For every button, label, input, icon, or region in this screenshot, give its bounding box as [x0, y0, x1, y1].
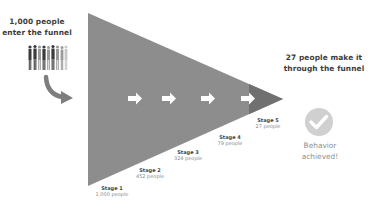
stage-count: 1,000 people — [92, 191, 132, 197]
stage-label-2: Stage 2 452 people — [130, 167, 170, 179]
intro-text: 1,000 people enter the funnel — [0, 16, 74, 38]
result-line-2: achieved! — [290, 151, 350, 162]
stage-label-4: Stage 4 79 people — [210, 134, 250, 146]
outro-line-1: 27 people make it — [276, 52, 372, 63]
stage-count: 27 people — [248, 123, 288, 129]
result-text: Behavior achieved! — [290, 140, 350, 162]
stage-count: 324 people — [168, 155, 208, 161]
crowd-icon — [28, 45, 67, 70]
outro-text: 27 people make it through the funnel — [276, 52, 372, 74]
curved-arrow-icon — [46, 77, 73, 104]
outro-line-2: through the funnel — [276, 63, 372, 74]
stage-label-1: Stage 1 1,000 people — [92, 185, 132, 197]
stage-label-5: Stage 5 27 people — [248, 117, 288, 129]
intro-line-2: enter the funnel — [0, 27, 74, 38]
result-line-1: Behavior — [290, 140, 350, 151]
stage-count: 79 people — [210, 140, 250, 146]
stage-count: 452 people — [130, 173, 170, 179]
intro-line-1: 1,000 people — [0, 16, 74, 27]
checkmark-circle-icon — [305, 108, 333, 136]
stage-label-3: Stage 3 324 people — [168, 149, 208, 161]
funnel-tip — [249, 0, 289, 209]
